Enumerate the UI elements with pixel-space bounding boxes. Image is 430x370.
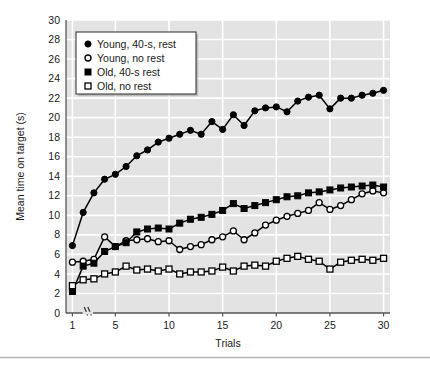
series-marker (327, 266, 333, 272)
series-marker (220, 264, 226, 270)
series-marker (123, 163, 129, 169)
series-marker (370, 90, 376, 96)
legend-marker-open-circle (85, 55, 91, 61)
y-tick-label: 20 (48, 111, 60, 123)
series-marker (284, 255, 290, 261)
series-marker (273, 197, 279, 203)
series-marker (370, 257, 376, 263)
series-marker (80, 209, 86, 215)
series-marker (187, 269, 193, 275)
series-marker (102, 176, 108, 182)
series-marker (69, 283, 75, 289)
legend-label: Old, 40-s rest (97, 66, 160, 78)
series-marker (263, 200, 269, 206)
series-marker (230, 228, 236, 234)
y-tick-label: 14 (48, 170, 60, 182)
series-marker (198, 214, 204, 220)
series-marker (91, 260, 97, 266)
series-marker (177, 220, 183, 226)
y-tick-label: 28 (48, 33, 60, 45)
series-marker (348, 257, 354, 263)
series-marker (273, 104, 279, 110)
series-marker (241, 122, 247, 128)
series-marker (144, 147, 150, 153)
series-marker (327, 106, 333, 112)
series-marker (112, 244, 118, 250)
series-marker (220, 126, 226, 132)
series-marker (166, 135, 172, 141)
series-marker (155, 268, 161, 274)
series-marker (284, 109, 290, 115)
x-tick-label: 1 (70, 319, 76, 331)
series-marker (187, 216, 193, 222)
series-marker (305, 94, 311, 100)
series-marker (252, 203, 258, 209)
series-marker (263, 222, 269, 228)
series-marker (155, 139, 161, 145)
series-marker (69, 289, 75, 295)
series-marker (177, 247, 183, 253)
series-marker (316, 258, 322, 264)
series-marker (348, 184, 354, 190)
series-marker (316, 189, 322, 195)
legend: Young, 40-s, restYoung, no restOld, 40-s… (76, 32, 198, 96)
series-marker (370, 182, 376, 188)
y-tick-label: 8 (54, 228, 60, 240)
series-marker (284, 194, 290, 200)
series-marker (166, 238, 172, 244)
series-marker (177, 131, 183, 137)
series-marker (359, 183, 365, 189)
y-tick-label: 26 (48, 53, 60, 65)
y-tick-label: 18 (48, 131, 60, 143)
series-marker (305, 190, 311, 196)
y-tick-label: 12 (48, 189, 60, 201)
series-marker (370, 188, 376, 194)
series-marker (166, 266, 172, 272)
series-marker (80, 263, 86, 269)
series-marker (198, 242, 204, 248)
series-marker (145, 266, 151, 272)
series-marker (252, 108, 258, 114)
series-marker (166, 226, 172, 232)
series-marker (187, 244, 193, 250)
series-marker (134, 267, 140, 273)
series-marker (198, 269, 204, 275)
series-marker (348, 197, 354, 203)
y-tick-label: 16 (48, 150, 60, 162)
series-marker (209, 237, 215, 243)
series-marker (102, 271, 108, 277)
series-marker (230, 112, 236, 118)
x-tick-label: 15 (217, 319, 229, 331)
series-marker (359, 191, 365, 197)
series-marker (91, 276, 97, 282)
y-tick-label: 22 (48, 92, 60, 104)
y-axis-tick-labels: 024681012141618202224262830 (48, 14, 60, 319)
x-axis-title: Trials (215, 337, 240, 349)
legend-marker-open-square (85, 83, 91, 89)
series-marker (295, 193, 301, 199)
legend-label: Young, 40-s, rest (97, 38, 176, 50)
series-marker (155, 225, 161, 231)
legend-label: Old, no rest (97, 80, 151, 92)
series-marker (381, 190, 387, 196)
series-marker (134, 153, 140, 159)
series-marker (209, 211, 215, 217)
series-marker (198, 131, 204, 137)
series-marker (338, 259, 344, 265)
x-tick-label: 20 (270, 319, 282, 331)
series-marker (263, 263, 269, 269)
series-marker (102, 234, 108, 240)
series-marker (327, 206, 333, 212)
series-marker (69, 243, 75, 249)
series-marker (327, 187, 333, 193)
series-marker (177, 271, 183, 277)
legend-label: Young, no rest (97, 52, 164, 64)
series-marker (381, 255, 387, 261)
series-marker (145, 226, 151, 232)
series-marker (134, 229, 140, 235)
series-marker (273, 258, 279, 264)
series-marker (220, 234, 226, 240)
series-marker (69, 259, 75, 265)
series-marker (209, 118, 215, 124)
series-marker (241, 263, 247, 269)
